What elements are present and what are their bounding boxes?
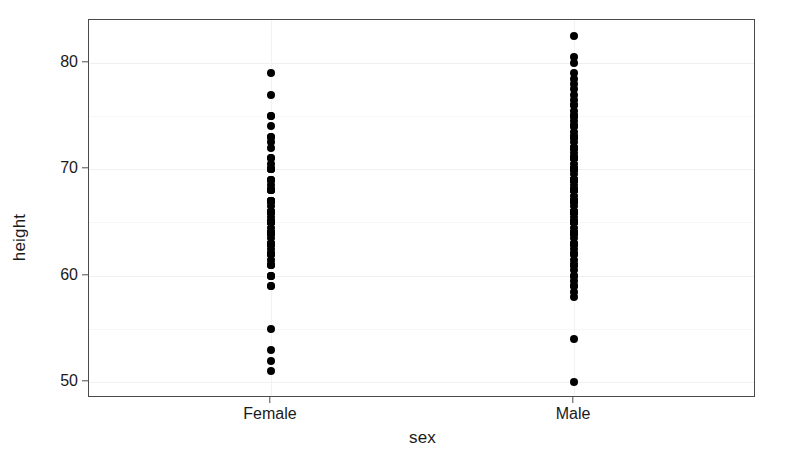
data-point [570, 293, 578, 301]
data-point [267, 112, 275, 120]
x-axis-tick-label: Male [493, 405, 653, 423]
data-point [267, 282, 275, 290]
y-axis-tick-label: 70 [38, 159, 78, 177]
data-point [267, 346, 275, 354]
y-axis-title: height [0, 0, 40, 457]
x-axis-tick-labels: FemaleMale [0, 405, 791, 427]
data-point [570, 32, 578, 40]
x-axis-tick-marks [0, 397, 791, 403]
y-axis-tick-label: 80 [38, 53, 78, 71]
gridline-minor [89, 329, 754, 330]
gridline-minor [89, 222, 754, 223]
plot-panel [88, 19, 755, 397]
x-axis-tick-mark [269, 397, 270, 403]
data-point [267, 186, 275, 194]
data-point [267, 91, 275, 99]
data-point [267, 367, 275, 375]
data-point [267, 261, 275, 269]
y-axis-title-label: height [10, 214, 30, 262]
data-point [267, 272, 275, 280]
data-point [267, 357, 275, 365]
gridline-major [89, 276, 754, 277]
data-point [267, 325, 275, 333]
data-point [267, 144, 275, 152]
gridline-major [89, 169, 754, 170]
scatter-plot-figure: height 50607080 FemaleMale sex [0, 0, 791, 457]
data-point [267, 69, 275, 77]
x-axis-tick-mark [572, 397, 573, 403]
y-axis-tick-labels: 50607080 [38, 0, 78, 457]
data-point [570, 59, 578, 67]
gridline-major [89, 63, 754, 64]
data-point [267, 122, 275, 130]
gridline-major [89, 382, 754, 383]
y-axis-tick-label: 60 [38, 266, 78, 284]
x-axis-tick-label: Female [190, 405, 350, 423]
x-axis-title-label: sex [409, 428, 436, 448]
data-point [267, 165, 275, 173]
data-point [570, 378, 578, 386]
gridline-minor [89, 116, 754, 117]
y-axis-tick-label: 50 [38, 372, 78, 390]
x-axis-title: sex [0, 428, 791, 448]
data-point [570, 335, 578, 343]
